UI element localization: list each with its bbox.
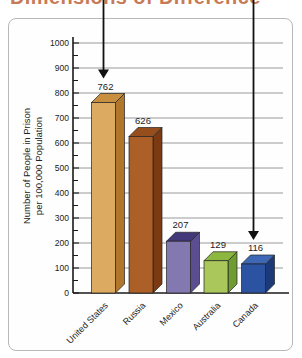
bar-united-states: [92, 94, 125, 294]
ytick-label-300: 300: [55, 213, 69, 223]
bar-front-australia: [204, 261, 228, 293]
bar-mexico: [167, 232, 200, 293]
value-label-united-states: 762: [98, 81, 114, 92]
prison-bar-chart: 01002003004005006007008009001000Number o…: [0, 0, 302, 358]
ytick-label-0: 0: [64, 288, 69, 298]
bar-canada: [242, 255, 275, 293]
xtick-label-united-states: United States: [65, 300, 111, 346]
value-label-mexico: 207: [173, 219, 189, 230]
value-label-canada: 116: [248, 242, 263, 253]
ytick-label-200: 200: [55, 238, 69, 248]
y-axis-label: Number of People in Prisonper 100,000 Po…: [21, 108, 44, 224]
bar-russia: [129, 128, 162, 294]
annotation-arrow-canada: [248, 0, 259, 240]
xtick-label-australia: Australia: [191, 300, 223, 332]
ytick-label-600: 600: [55, 138, 69, 148]
ytick-label-1000: 1000: [50, 38, 69, 48]
xtick-label-mexico: Mexico: [158, 300, 185, 327]
bar-front-united-states: [92, 103, 116, 294]
bar-australia: [204, 252, 237, 293]
ytick-label-400: 400: [55, 188, 69, 198]
xtick-label-canada: Canada: [231, 300, 260, 329]
ytick-label-100: 100: [55, 263, 69, 273]
ytick-label-700: 700: [55, 113, 69, 123]
ytick-label-800: 800: [55, 88, 69, 98]
ytick-label-500: 500: [55, 163, 69, 173]
arrowhead-icon: [248, 231, 259, 240]
arrowhead-icon: [98, 70, 109, 79]
xtick-label-russia: Russia: [121, 300, 148, 327]
ytick-label-900: 900: [55, 63, 69, 73]
bar-side-russia: [153, 128, 162, 294]
bar-front-russia: [129, 137, 153, 294]
bar-side-mexico: [191, 232, 200, 293]
bar-side-united-states: [116, 94, 125, 294]
annotation-arrow-united-states: [98, 0, 109, 79]
bar-front-mexico: [167, 241, 191, 293]
value-label-russia: 626: [135, 115, 151, 126]
value-label-australia: 129: [210, 239, 226, 250]
bar-front-canada: [242, 264, 266, 293]
